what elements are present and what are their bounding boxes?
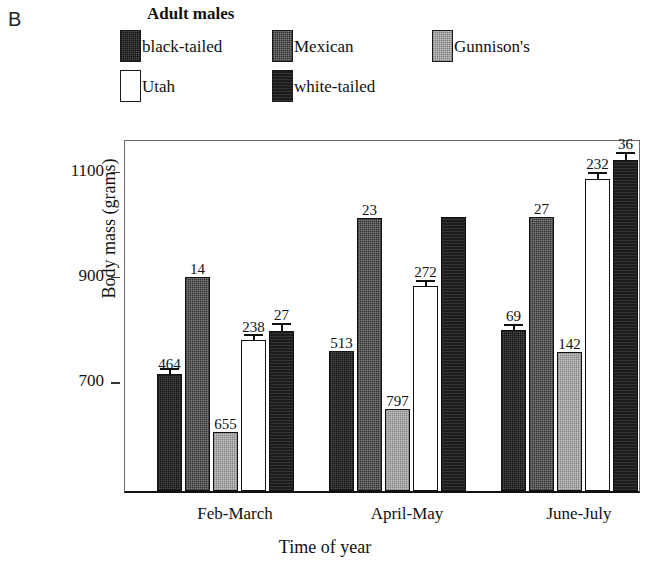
legend-item-gunnisons[interactable]: Gunnison's [432,30,530,62]
bar-sample-size-label: 14 [176,261,219,278]
legend-label-mexican: Mexican [294,38,353,55]
legend-swatch-black-tailed-icon [120,30,141,62]
y-tick-label: 1100 [54,161,104,181]
legend-item-utah[interactable]: Utah [120,70,272,102]
legend-label-utah: Utah [142,78,175,95]
legend-swatch-utah-icon [120,70,141,102]
bar-sample-size-label: 27 [520,201,563,218]
error-bar [269,323,294,331]
legend-item-mexican[interactable]: Mexican [272,30,432,62]
plot-area: 464146552382751323797272692714223236 [125,141,639,491]
x-axis-label: Time of year [0,537,650,558]
bar-whitetailed-feb-march[interactable] [269,331,294,491]
bar-whitetailed-april-may[interactable] [441,217,466,491]
bar-blacktailed-june-july[interactable] [501,330,526,491]
legend-row-2: Utah white-tailed [120,70,640,102]
legend-label-gunnisons: Gunnison's [454,38,530,55]
legend-label-black-tailed: black-tailed [142,38,222,55]
y-tick-mark [111,172,120,174]
bar-mexican-april-may[interactable] [357,218,382,491]
x-group-label: June-July [475,504,650,524]
legend-swatch-gunnisons-icon [432,30,453,62]
legend-title: Adult males [147,4,640,24]
y-tick-mark [111,277,120,279]
error-bar [613,152,638,160]
bar-gunnisons-april-may[interactable] [385,409,410,491]
bar-sample-size-label: 27 [260,307,303,324]
y-axis-label: Body mass (grams) [99,114,120,344]
bar-whitetailed-june-july[interactable] [613,160,638,491]
y-tick-label: 700 [54,371,104,391]
legend-row-1: black-tailed Mexican Gunnison's [120,30,640,62]
legend-item-black-tailed[interactable]: black-tailed [120,30,272,62]
legend-swatch-white-tailed-icon [272,70,293,102]
y-tick-mark [111,382,120,384]
legend-item-white-tailed[interactable]: white-tailed [272,70,375,102]
legend-label-white-tailed: white-tailed [294,78,375,95]
bar-utah-april-may[interactable] [413,286,438,491]
panel-letter: B [8,8,21,31]
y-tick-label: 900 [54,266,104,286]
plot-frame: 464146552382751323797272692714223236 [124,140,640,493]
bar-sample-size-label: 36 [604,136,647,153]
bar-utah-june-july[interactable] [585,179,610,491]
bar-blacktailed-april-may[interactable] [329,351,354,491]
bar-utah-feb-march[interactable] [241,340,266,491]
bar-mexican-feb-march[interactable] [185,277,210,491]
legend: Adult males black-tailed Mexican Gunniso… [120,4,640,102]
bar-mexican-june-july[interactable] [529,217,554,491]
legend-swatch-mexican-icon [272,30,293,62]
bar-gunnisons-june-july[interactable] [557,352,582,491]
bar-gunnisons-feb-march[interactable] [213,432,238,491]
bar-sample-size-label: 23 [348,202,391,219]
bar-blacktailed-feb-march[interactable] [157,374,182,491]
